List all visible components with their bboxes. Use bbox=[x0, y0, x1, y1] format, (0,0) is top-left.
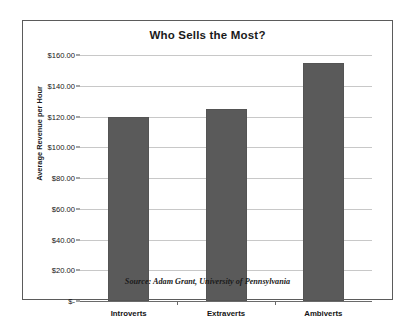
y-axis-tick-mark bbox=[76, 178, 80, 179]
y-axis-tick-mark bbox=[76, 239, 80, 240]
y-axis-tick-mark bbox=[76, 147, 80, 148]
y-axis-tick-label: $80.00 bbox=[52, 174, 75, 183]
y-axis-tick-label: $120.00 bbox=[48, 112, 75, 121]
gridline bbox=[80, 55, 372, 56]
x-axis-category-label: Ambiverts bbox=[304, 309, 342, 317]
x-axis-category-label: Extraverts bbox=[207, 309, 245, 317]
y-axis-tick-label: $160.00 bbox=[48, 51, 75, 60]
y-axis-tick-mark bbox=[76, 85, 80, 86]
x-axis-tick-mark bbox=[275, 301, 276, 305]
y-axis-tick-label: $140.00 bbox=[48, 81, 75, 90]
y-axis-tick-label: $60.00 bbox=[52, 204, 75, 213]
y-axis-tick-label: $20.00 bbox=[52, 266, 75, 275]
y-axis-tick-mark bbox=[76, 208, 80, 209]
bar bbox=[206, 109, 247, 301]
x-axis-tick-mark bbox=[177, 301, 178, 305]
y-axis-tick-label: $100.00 bbox=[48, 143, 75, 152]
x-axis-line bbox=[80, 301, 372, 302]
bar bbox=[108, 117, 149, 302]
plot-area: $-$20.00$40.00$60.00$80.00$100.00$120.00… bbox=[80, 55, 372, 301]
y-axis-tick-mark bbox=[76, 55, 80, 56]
y-axis-tick-label: $- bbox=[68, 297, 75, 306]
y-axis-title: Average Revenue per Hour bbox=[35, 74, 44, 194]
y-axis-tick-label: $40.00 bbox=[52, 235, 75, 244]
x-axis-category-label: Introverts bbox=[111, 309, 147, 317]
y-axis-tick-mark bbox=[76, 116, 80, 117]
chart-frame: Who Sells the Most? Average Revenue per … bbox=[22, 20, 393, 300]
y-axis-tick-mark bbox=[76, 270, 80, 271]
source-note: Source: Adam Grant, University of Pennsy… bbox=[23, 277, 392, 286]
bar bbox=[303, 63, 344, 301]
chart-title: Who Sells the Most? bbox=[23, 29, 392, 41]
